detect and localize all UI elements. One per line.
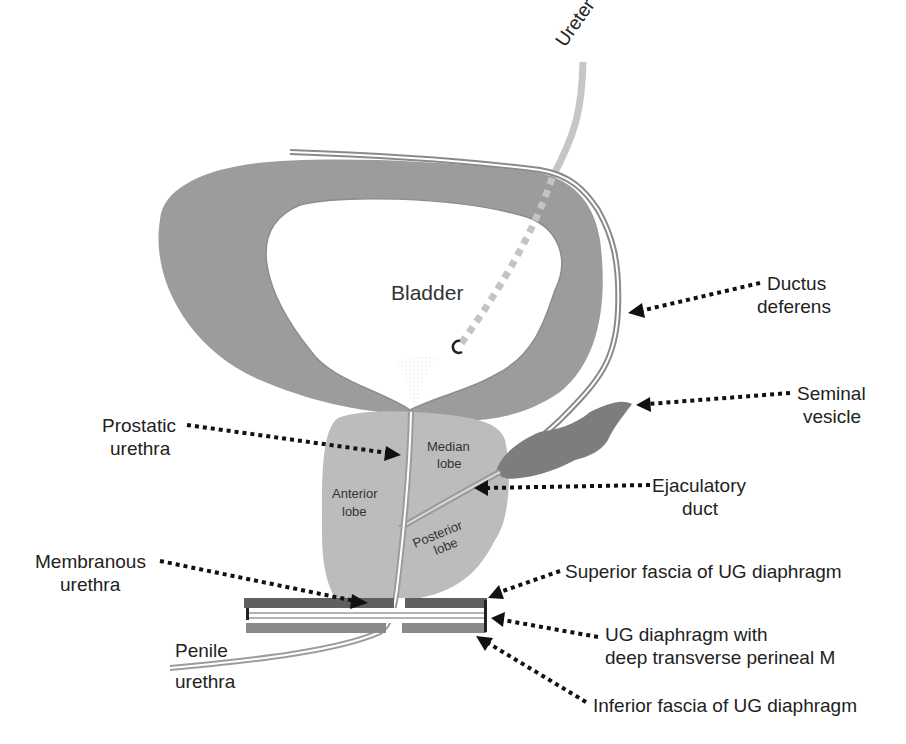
ejaculatory-duct-label-2: duct: [682, 498, 719, 519]
seminal-vesicle-label-2: vesicle: [803, 406, 861, 427]
ug-diaphragm-label-2: deep transverse perineal M: [605, 647, 835, 668]
ductus-deferens-label-2: deferens: [757, 296, 831, 317]
penile-urethra-label-2: urethra: [175, 671, 236, 692]
prostatic-urethra-label-2: urethra: [110, 438, 171, 459]
bladder-label: Bladder: [391, 281, 463, 304]
superior-fascia-label: Superior fascia of UG diaphragm: [565, 561, 842, 582]
membranous-urethra-label-2: urethra: [60, 574, 121, 595]
inferior-fascia-label: Inferior fascia of UG diaphragm: [593, 695, 857, 716]
median-lobe-label-2: lobe: [437, 456, 462, 471]
ejaculatory-duct-label-1: Ejaculatory: [652, 475, 746, 496]
seminal-vesicle-label-1: Seminal: [797, 383, 866, 404]
median-lobe-label-1: Median: [427, 439, 470, 454]
penile-urethra-label-1: Penile: [175, 640, 228, 661]
membranous-urethra-label-1: Membranous: [35, 551, 146, 572]
anterior-lobe-label-2: lobe: [342, 504, 367, 519]
ureter: [552, 62, 583, 178]
anterior-lobe-label-1: Anterior: [332, 486, 378, 501]
ductus-deferens-label-1: Ductus: [767, 273, 826, 294]
prostatic-urethra-label-1: Prostatic: [102, 415, 176, 436]
ug-diaphragm-label-1: UG diaphragm with: [605, 624, 768, 645]
ureter-label: Ureter: [551, 0, 599, 50]
anatomy-diagram: Bladder Ureter Median lobe Anterior lobe…: [0, 0, 906, 744]
